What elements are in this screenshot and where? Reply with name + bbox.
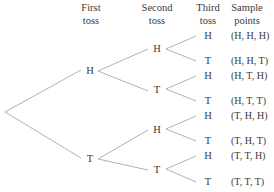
node-second-HT: T [154, 84, 160, 96]
sample-point-5: (T, H, H) [231, 110, 267, 122]
sample-point-8: (T, T, T) [231, 176, 264, 188]
node-second-TH: H [153, 124, 161, 136]
node-third-1: H [204, 30, 212, 42]
sample-point-2: (H, H, T) [231, 55, 268, 67]
edge-H-T [98, 71, 148, 91]
node-third-8: T [205, 176, 211, 188]
header-second-toss: Second toss [142, 2, 173, 27]
edge-root-T [5, 112, 81, 158]
sample-point-4: (H, T, T) [231, 95, 266, 107]
node-third-4: T [205, 95, 211, 107]
header-third-toss: Third toss [196, 2, 219, 27]
node-second-TT: T [154, 164, 160, 176]
edge-root-H [5, 70, 81, 112]
node-second-HH: H [153, 43, 161, 55]
edge-H-H [98, 49, 148, 71]
sample-point-1: (H, H, H) [231, 30, 269, 42]
node-third-2: T [205, 55, 211, 67]
node-third-6: T [205, 135, 211, 147]
edge-T-H [98, 130, 148, 159]
header-sample-points: Sample points [231, 2, 263, 27]
node-first-H: H [86, 65, 94, 77]
sample-point-6: (T, H, T) [231, 135, 266, 147]
sample-point-7: (T, T, H) [231, 150, 265, 162]
node-third-3: H [204, 70, 212, 82]
edge-T-T [98, 159, 148, 170]
node-third-7: H [204, 150, 212, 162]
node-first-T: T [87, 153, 93, 165]
sample-point-3: (H, T, H) [231, 70, 267, 82]
node-third-5: H [204, 110, 212, 122]
header-first-toss: First toss [81, 2, 100, 27]
coin-toss-tree-diagram: First toss Second toss Third toss Sample… [0, 0, 274, 192]
